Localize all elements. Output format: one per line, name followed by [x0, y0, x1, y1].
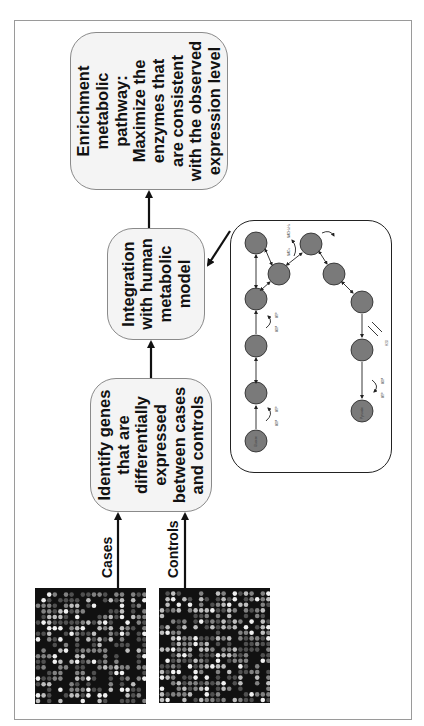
svg-text:NAD+: NAD+ — [287, 248, 291, 256]
svg-text:Glucose: Glucose — [254, 436, 258, 447]
svg-text:ADP: ADP — [275, 326, 279, 332]
node-dhap — [245, 232, 267, 254]
diagram-canvas: Cases Controls Identify genes that are d… — [0, 0, 424, 726]
svg-text:ATP: ATP — [381, 392, 385, 398]
pathway-graph — [245, 232, 373, 452]
svg-text:H2O: H2O — [385, 339, 389, 346]
svg-text:ADP: ADP — [275, 420, 279, 426]
node-3pg — [323, 263, 345, 285]
node-2pg — [351, 291, 373, 313]
svg-text:ADP: ADP — [381, 378, 385, 384]
node-13bpg — [300, 233, 322, 255]
svg-text:ATP: ATP — [275, 312, 279, 318]
node-g3p — [268, 263, 290, 285]
svg-text:NADH+H+: NADH+H+ — [287, 224, 291, 238]
panel-to-integration-arrow — [208, 231, 230, 265]
svg-text:ATP: ATP — [275, 406, 279, 412]
node-pep — [351, 339, 373, 361]
node-f6p — [245, 335, 267, 357]
svg-text:Pyruvate: Pyruvate — [360, 407, 364, 419]
node-f16bp — [245, 288, 267, 310]
arrows-layer: Glucose Pyruvate ADP ATP ADP ATP NAD+ NA… — [0, 0, 424, 726]
node-g6p — [245, 382, 267, 404]
